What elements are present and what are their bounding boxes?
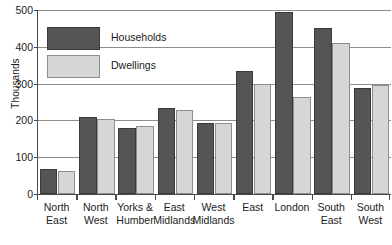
legend-swatch-households [47, 27, 100, 50]
bar-dwellings [136, 126, 154, 194]
bar-households [197, 123, 215, 194]
bar-chart: Thousands 5004003002001000 NorthEastNort… [0, 0, 392, 245]
legend-label-households: Households [111, 31, 166, 43]
bar-households [40, 169, 58, 194]
x-tick-mark [115, 195, 116, 200]
bar-households [158, 108, 176, 194]
bar-households [118, 128, 136, 194]
x-tick-mark [76, 195, 77, 200]
bar-group [273, 10, 312, 194]
bar-households [79, 117, 97, 194]
x-tick-mark [155, 195, 156, 200]
bar-group [352, 10, 391, 194]
bar-dwellings [97, 119, 115, 194]
y-tick-label-0: 0 [1, 188, 33, 200]
bar-households [354, 88, 372, 194]
x-tick-mark [312, 195, 313, 200]
bar-dwellings [176, 110, 194, 194]
x-tick-mark [272, 195, 273, 200]
bar-dwellings [332, 43, 350, 194]
x-tick-mark [233, 195, 234, 200]
y-tick-label-500: 500 [1, 4, 33, 16]
x-tick-mark [37, 195, 38, 200]
y-tick-label-200: 200 [1, 114, 33, 126]
x-tick-mark [194, 195, 195, 200]
bar-dwellings [58, 171, 76, 194]
bar-households [236, 71, 254, 194]
bar-dwellings [215, 123, 233, 194]
bar-dwellings [372, 85, 390, 194]
bar-households [314, 28, 332, 194]
y-tick-label-100: 100 [1, 151, 33, 163]
bar-group [195, 10, 234, 194]
bar-dwellings [293, 97, 311, 194]
y-tick-label-400: 400 [1, 41, 33, 53]
x-category-label: SouthWest [345, 201, 392, 226]
legend-label-dwellings: Dwellings [111, 59, 156, 71]
legend-swatch-dwellings [47, 55, 100, 78]
bar-dwellings [254, 84, 272, 194]
x-tick-mark [389, 195, 390, 200]
bar-group [313, 10, 352, 194]
bar-households [275, 12, 293, 194]
bar-group [234, 10, 273, 194]
x-tick-mark [351, 195, 352, 200]
x-axis-category-labels: NorthEastNorthWestYorks &HumberEastMidla… [37, 201, 390, 245]
y-tick-label-300: 300 [1, 78, 33, 90]
y-axis-tick-labels: 5004003002001000 [0, 10, 33, 194]
